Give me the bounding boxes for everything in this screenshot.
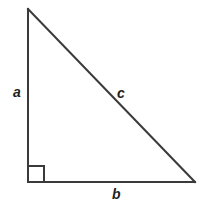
side-label-a: a bbox=[13, 85, 21, 99]
triangle-drawing bbox=[0, 0, 209, 207]
right-triangle-figure: a c b bbox=[0, 0, 209, 207]
side-c-hypotenuse-line bbox=[28, 9, 195, 182]
side-label-b: b bbox=[112, 187, 121, 201]
side-label-c: c bbox=[117, 86, 125, 100]
right-angle-square-icon bbox=[28, 166, 44, 182]
